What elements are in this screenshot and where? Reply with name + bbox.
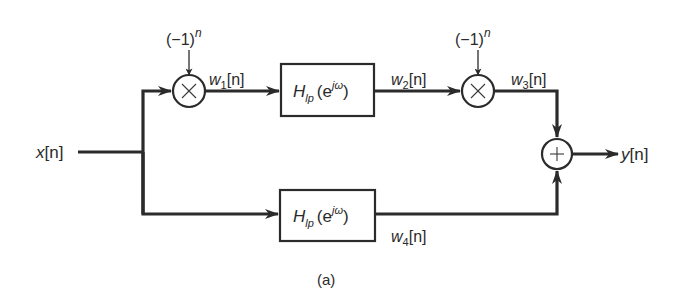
w4-label: w4[n] bbox=[391, 228, 426, 248]
modulator-1-input-label: (−1)n bbox=[166, 26, 202, 48]
w1-label: w1[n] bbox=[209, 71, 244, 91]
lowpass-filter-bottom: Hlp(ejω) bbox=[280, 190, 375, 241]
adder-node bbox=[542, 139, 572, 169]
lowpass-filter-top: Hlp(ejω) bbox=[281, 64, 374, 116]
multiplier-1-node bbox=[173, 75, 205, 107]
w3-label: w3[n] bbox=[511, 71, 546, 91]
figure-caption: (a) bbox=[317, 271, 335, 288]
multiplier-2-node bbox=[462, 75, 494, 107]
input-label: x[n] bbox=[35, 143, 63, 162]
modulator-2-input-label: (−1)n bbox=[455, 26, 491, 48]
w4-wire bbox=[375, 171, 557, 214]
w2-label: w2[n] bbox=[391, 71, 426, 91]
w3-wire bbox=[494, 91, 557, 137]
upper-branch-wire bbox=[143, 91, 171, 214]
block-diagram: x[n] (−1)n w1[n] Hlp(ejω) w2[n] (−1)n w3… bbox=[0, 0, 685, 305]
lower-branch-wire bbox=[143, 152, 278, 214]
output-label: y[n] bbox=[620, 145, 648, 164]
